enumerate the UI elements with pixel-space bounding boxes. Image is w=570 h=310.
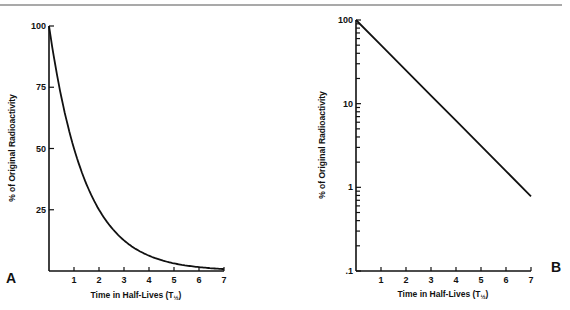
- figure: A % of Original Radioactivity Time in Ha…: [0, 0, 570, 310]
- y-axis-title-b: % of Original Radioactivity: [317, 91, 327, 199]
- x-tick-label-a: 7: [221, 275, 226, 285]
- panel-letter-b: B: [551, 259, 561, 275]
- y-tick-label-b: .1: [345, 266, 353, 276]
- panel-letter-a: A: [6, 270, 16, 286]
- x-tick-label-b: 5: [478, 275, 483, 285]
- x-axis-title-b: Time in Half-Lives (T½): [398, 289, 489, 300]
- chart-a: A % of Original Radioactivity Time in Ha…: [6, 21, 227, 301]
- y-tick-label-a: 25: [36, 205, 46, 215]
- x-tick-label-a: 6: [196, 275, 201, 285]
- y-tick-label-a: 50: [36, 144, 46, 154]
- x-tick-label-b: 7: [528, 275, 533, 285]
- y-tick-label-a: 75: [36, 82, 46, 92]
- decay-curve-b: [356, 20, 531, 196]
- x-tick-label-b: 1: [378, 275, 383, 285]
- x-tick-label-a: 2: [96, 275, 101, 285]
- decay-curve-a: [49, 26, 224, 269]
- y-tick-label-b: 1: [348, 182, 353, 192]
- x-tick-label-a: 4: [146, 275, 151, 285]
- x-tick-label-a: 3: [121, 275, 126, 285]
- y-axis-title-a: % of Original Radioactivity: [7, 94, 17, 202]
- x-axis-title-a: Time in Half-Lives (T½): [91, 290, 182, 301]
- y-tick-label-a: 100: [31, 21, 46, 31]
- y-tick-label-b: 100: [338, 15, 353, 25]
- y-tick-label-b: 10: [343, 99, 353, 109]
- x-tick-label-b: 2: [403, 275, 408, 285]
- x-tick-label-a: 5: [171, 275, 176, 285]
- x-tick-label-b: 6: [503, 275, 508, 285]
- x-tick-label-a: 1: [71, 275, 76, 285]
- chart-b: B % of Original Radioactivity Time in Ha…: [317, 15, 561, 300]
- x-tick-label-b: 3: [428, 275, 433, 285]
- x-tick-label-b: 4: [453, 275, 458, 285]
